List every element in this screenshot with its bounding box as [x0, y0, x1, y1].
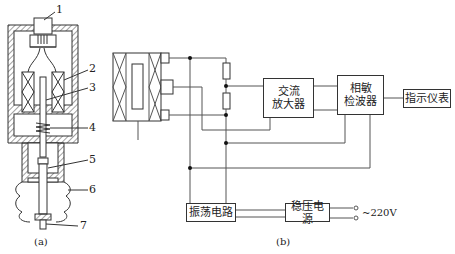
caption-b: (b)	[276, 236, 290, 247]
part-label-7: 7	[80, 220, 87, 232]
sensor-cross-section	[8, 12, 88, 229]
regulated-supply-block: 稳压电源	[285, 203, 330, 222]
indicator-block: 指示仪表	[403, 89, 451, 108]
phase-detector-block: 相敏 检波器	[337, 75, 384, 115]
part-label-5: 5	[89, 154, 96, 166]
caption-a: (a)	[34, 236, 48, 247]
phase-detector-line1: 相敏	[350, 82, 372, 95]
junction-dots	[188, 56, 228, 170]
ac-amplifier-line1: 交流	[278, 85, 300, 98]
part-label-1: 1	[56, 4, 63, 16]
part-label-2: 2	[89, 63, 96, 75]
phase-detector-line2: 检波器	[344, 95, 377, 108]
part-label-3: 3	[89, 82, 96, 94]
part-label-6: 6	[89, 184, 96, 196]
ac-amplifier-block: 交流 放大器	[263, 78, 314, 118]
part-label-4: 4	[89, 122, 96, 134]
ac-amplifier-line2: 放大器	[272, 98, 305, 111]
oscillator-block: 振荡电路	[186, 203, 236, 222]
supply-voltage-label: ~220V	[362, 207, 397, 219]
